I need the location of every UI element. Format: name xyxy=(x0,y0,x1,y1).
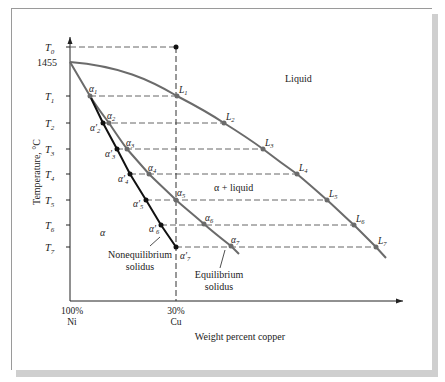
y-tick-T1: T1 xyxy=(45,91,54,105)
label-alpha4-prime: α'4 xyxy=(118,174,129,185)
label-L5: L5 xyxy=(328,189,338,200)
label-L3: L3 xyxy=(264,138,274,149)
y-tick-1455: 1455 xyxy=(37,57,57,68)
y-tick-T0: T0 xyxy=(45,42,55,56)
liquidus-curve xyxy=(70,62,386,258)
label-alpha2: α2 xyxy=(107,111,116,122)
label-alpha6-prime: α'6 xyxy=(149,224,160,235)
y-axis-label: Temperature, °C xyxy=(31,139,42,205)
x-axis-label: Weight percent copper xyxy=(195,331,286,342)
x-tick-30-cu-line1: 30% xyxy=(167,306,185,316)
y-tick-marks xyxy=(66,47,70,247)
label-alpha5-prime: α'5 xyxy=(133,199,144,210)
region-alpha: α xyxy=(100,227,106,238)
label-alpha7: α7 xyxy=(231,235,240,246)
annotation-equilibrium-line1: Equilibrium xyxy=(195,269,244,280)
start-point xyxy=(174,45,179,50)
y-tick-T5: T5 xyxy=(45,195,55,209)
annotation-equilibrium-line2: solidus xyxy=(205,281,233,292)
label-alpha5: α5 xyxy=(177,188,186,199)
label-alpha4: α4 xyxy=(148,163,157,174)
region-liquid: Liquid xyxy=(285,73,312,84)
y-tick-T7: T7 xyxy=(45,242,55,256)
x-tick-100-ni-line1: 100% xyxy=(61,306,83,316)
y-tick-T4: T4 xyxy=(45,169,55,183)
label-alpha3: α3 xyxy=(126,138,135,149)
phase-diagram: T0 1455 T1 T2 T3 T4 T5 T6 T7 Temperature… xyxy=(0,0,445,382)
region-alpha-liquid: α + liquid xyxy=(214,182,253,193)
label-L1: L1 xyxy=(178,85,188,96)
label-L2: L2 xyxy=(225,112,235,123)
label-alpha6: α6 xyxy=(205,213,214,224)
label-alpha7-prime: α'7 xyxy=(180,251,191,262)
label-alpha2-prime: α'2 xyxy=(90,123,101,134)
label-alpha1: α1 xyxy=(89,84,97,95)
label-L7: L7 xyxy=(377,236,387,247)
label-L4: L4 xyxy=(298,163,308,174)
label-L6: L6 xyxy=(355,214,365,225)
y-tick-T3: T3 xyxy=(45,144,55,158)
y-tick-T2: T2 xyxy=(45,118,55,132)
label-alpha3-prime: α'3 xyxy=(105,149,116,160)
x-tick-30-cu-line2: Cu xyxy=(170,317,181,327)
annotation-nonequilibrium-line1: Nonequilibrium xyxy=(108,249,172,260)
annotation-nonequilibrium-line2: solidus xyxy=(126,261,154,272)
x-tick-100-ni-line2: Ni xyxy=(67,317,77,327)
nonequilibrium-pointer xyxy=(150,237,160,246)
y-tick-T6: T6 xyxy=(45,220,55,234)
equilibrium-pointer xyxy=(220,250,225,268)
